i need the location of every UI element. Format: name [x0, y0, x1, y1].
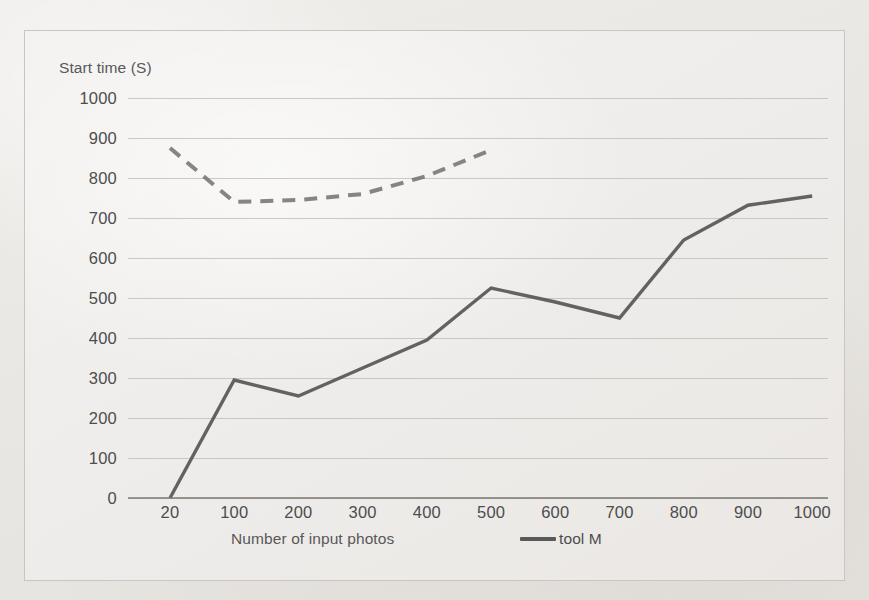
series-line-unlabeled-dashed — [170, 148, 491, 202]
series-lines — [25, 31, 846, 582]
legend-line-swatch — [520, 537, 556, 541]
plot-area: Start time (S) 1000900800700600500400300… — [25, 31, 846, 582]
x-tick-label: 100 — [199, 503, 269, 522]
chart-legend: tool M — [520, 530, 602, 548]
x-tick-label: 1000 — [777, 503, 847, 522]
x-tick-label: 900 — [713, 503, 783, 522]
x-tick-label: 800 — [649, 503, 719, 522]
x-tick-label: 400 — [392, 503, 462, 522]
series-line-tool-m — [170, 196, 812, 498]
x-tick-label: 300 — [328, 503, 398, 522]
chart-container: Start time (S) 1000900800700600500400300… — [24, 30, 845, 581]
x-tick-label: 500 — [456, 503, 526, 522]
x-axis-title: Number of input photos — [231, 530, 394, 548]
legend-label-tool-m: tool M — [559, 530, 602, 548]
x-tick-label: 600 — [520, 503, 590, 522]
x-axis-tick-labels: 201002003004005006007008009001000 — [128, 503, 828, 533]
x-tick-label: 20 — [135, 503, 205, 522]
x-tick-label: 200 — [263, 503, 333, 522]
x-tick-label: 700 — [585, 503, 655, 522]
